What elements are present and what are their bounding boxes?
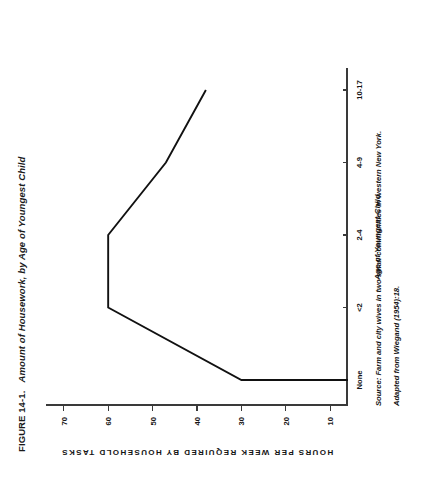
source-note: Source: Farm and city wives in two small…	[374, 131, 383, 406]
y-tick	[63, 406, 64, 411]
y-tick	[152, 406, 153, 411]
y-tick-label: 60	[104, 417, 113, 425]
x-tick-label: 10-17	[355, 80, 364, 99]
x-tick-label: <2	[355, 303, 364, 312]
x-tick-label: 2-4	[355, 230, 364, 241]
y-tick-label: 10	[326, 417, 335, 425]
x-tick-label: 4-9	[355, 157, 364, 168]
y-tick-label: 20	[281, 417, 290, 425]
figure-number: FIGURE 14-1.	[16, 391, 27, 452]
y-axis-title: HOURS PER WEEK REQUIRED BY HOUSEHOLD TAS…	[61, 448, 333, 457]
y-tick-label: 50	[148, 417, 157, 425]
data-series-line	[46, 68, 348, 406]
figure-caption: FIGURE 14-1. Amount of Housework, by Age…	[16, 157, 27, 452]
y-tick	[108, 406, 109, 411]
y-tick	[285, 406, 286, 411]
y-tick-label: 30	[237, 417, 246, 425]
y-tick-label: 70	[59, 417, 68, 425]
figure-canvas: FIGURE 14-1. Amount of Housework, by Age…	[0, 0, 440, 478]
x-tick-label: None	[355, 371, 364, 390]
y-tick-label: 40	[193, 417, 202, 425]
adapted-from-note: Adapted from Wiegand (1954):18.	[392, 286, 401, 406]
figure-title: Amount of Housework, by Age of Youngest …	[16, 157, 27, 383]
y-tick	[196, 406, 197, 411]
line-chart-plot-area: None<22-44-910-17 10203040506070 Age of …	[46, 68, 348, 406]
y-tick	[330, 406, 331, 411]
y-tick	[241, 406, 242, 411]
